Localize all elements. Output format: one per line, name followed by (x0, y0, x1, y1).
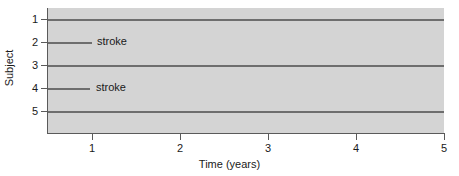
y-tick-label-1: 1 (20, 14, 38, 25)
x-tick-2 (180, 134, 181, 140)
x-tick-5 (444, 134, 445, 140)
event-label-subject-4: stroke (96, 82, 126, 93)
subject-line-4 (48, 88, 90, 90)
subject-line-5 (48, 111, 444, 113)
subject-line-1 (48, 19, 444, 21)
subject-line-2 (48, 42, 92, 44)
y-tick-label-4: 4 (20, 83, 38, 94)
y-tick-1 (41, 19, 47, 20)
y-tick-5 (41, 111, 47, 112)
x-tick-4 (356, 134, 357, 140)
x-tick-label-5: 5 (434, 143, 454, 154)
x-tick-label-2: 2 (170, 143, 190, 154)
x-tick-3 (268, 134, 269, 140)
y-tick-label-2: 2 (20, 37, 38, 48)
y-tick-2 (41, 42, 47, 43)
y-tick-4 (41, 88, 47, 89)
x-tick-1 (92, 134, 93, 140)
y-tick-label-3: 3 (20, 60, 38, 71)
x-axis-spine (47, 133, 445, 134)
x-tick-label-4: 4 (346, 143, 366, 154)
x-tick-label-1: 1 (82, 143, 102, 154)
y-tick-label-5: 5 (20, 106, 38, 117)
event-history-chart: stroke stroke 1 2 3 4 5 1 2 3 4 5 Time (… (0, 0, 459, 176)
plot-panel: stroke stroke (48, 8, 444, 133)
subject-line-3 (48, 65, 444, 67)
x-tick-label-3: 3 (258, 143, 278, 154)
x-axis-label: Time (years) (0, 158, 459, 170)
y-axis-spine (47, 8, 48, 134)
event-label-subject-2: stroke (97, 36, 127, 47)
y-axis-label: Subject (3, 33, 15, 103)
y-tick-3 (41, 65, 47, 66)
